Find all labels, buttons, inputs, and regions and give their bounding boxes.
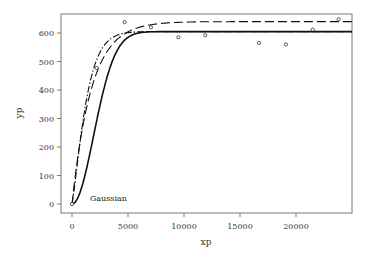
- data-point: [149, 26, 152, 29]
- x-tick-label: 5000: [118, 222, 138, 231]
- model-annotation: Gaussian: [90, 194, 127, 203]
- data-point: [284, 43, 287, 46]
- x-tick-label: 10000: [171, 222, 196, 231]
- x-axis-title: xp: [201, 237, 212, 247]
- data-point: [70, 202, 73, 205]
- x-tick-label: 0: [69, 222, 74, 231]
- y-tick-label: 600: [39, 29, 54, 38]
- chart: 05000100001500020000 0100200300400500600…: [0, 0, 366, 261]
- y-tick-label: 0: [49, 200, 54, 209]
- x-tick-label: 20000: [283, 222, 308, 231]
- plot-frame: [61, 14, 352, 213]
- y-axis-title: yp: [14, 107, 24, 119]
- data-point: [123, 21, 126, 24]
- x-axis: 05000100001500020000: [69, 213, 308, 231]
- y-tick-label: 100: [39, 172, 54, 181]
- curve-solid: [72, 32, 352, 204]
- x-tick-label: 15000: [227, 222, 252, 231]
- data-point: [257, 41, 260, 44]
- y-axis: 0100200300400500600: [39, 29, 61, 209]
- y-tick-label: 500: [39, 58, 54, 67]
- model-curves: [72, 22, 352, 204]
- y-tick-label: 200: [39, 143, 54, 152]
- y-tick-label: 300: [39, 115, 54, 124]
- data-point: [204, 34, 207, 37]
- data-point: [311, 28, 314, 31]
- y-tick-label: 400: [39, 86, 54, 95]
- curve-long-dash: [72, 22, 352, 204]
- data-point: [177, 36, 180, 39]
- data-point: [95, 66, 98, 69]
- data-point: [337, 18, 340, 21]
